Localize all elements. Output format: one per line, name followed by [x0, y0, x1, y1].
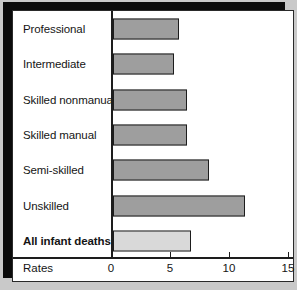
x-axis-tick-mark — [170, 252, 171, 257]
bar — [113, 18, 179, 39]
plot-area: ProfessionalIntermediateSkilled nonmanua… — [13, 11, 293, 259]
category-row: Unskilled — [13, 188, 111, 223]
x-axis: Rates 051015 — [13, 257, 293, 281]
x-axis-tick-label: 5 — [167, 262, 173, 274]
bar — [113, 54, 174, 75]
x-axis-tick-label: 15 — [282, 262, 295, 274]
x-axis-line — [13, 257, 293, 259]
x-axis-tick-label: 0 — [108, 262, 114, 274]
category-row: Skilled manual — [13, 117, 111, 152]
bar-row — [113, 82, 293, 117]
x-axis-caption: Rates — [23, 262, 53, 274]
category-row: All infant deaths — [13, 224, 111, 259]
bar — [113, 195, 245, 216]
bar-row — [113, 188, 293, 223]
x-axis-tick-mark — [288, 252, 289, 257]
x-axis-tick-mark — [229, 252, 230, 257]
category-label: Professional — [23, 23, 85, 35]
category-row: Semi-skilled — [13, 153, 111, 188]
bar-row — [113, 117, 293, 152]
category-label-column: ProfessionalIntermediateSkilled nonmanua… — [13, 11, 111, 259]
category-label: Skilled nonmanual — [23, 94, 115, 106]
bar — [113, 160, 209, 181]
chart-panel: ProfessionalIntermediateSkilled nonmanua… — [12, 10, 294, 282]
x-axis-tick-mark — [111, 252, 112, 257]
category-row: Intermediate — [13, 46, 111, 81]
bar-row — [113, 224, 293, 259]
category-row: Skilled nonmanual — [13, 82, 111, 117]
category-label: Skilled manual — [23, 129, 96, 141]
bars-column — [111, 11, 293, 259]
category-label: Unskilled — [23, 200, 69, 212]
bar-row — [113, 153, 293, 188]
bar — [113, 124, 187, 145]
category-row: Professional — [13, 11, 111, 46]
bar — [113, 89, 187, 110]
bar — [113, 231, 191, 252]
category-label: Intermediate — [23, 58, 86, 70]
bar-row — [113, 11, 293, 46]
bar-chart-figure: ProfessionalIntermediateSkilled nonmanua… — [0, 0, 297, 290]
category-label: Semi-skilled — [23, 164, 84, 176]
x-axis-tick-label: 10 — [223, 262, 236, 274]
category-label: All infant deaths — [23, 235, 111, 247]
bar-row — [113, 46, 293, 81]
